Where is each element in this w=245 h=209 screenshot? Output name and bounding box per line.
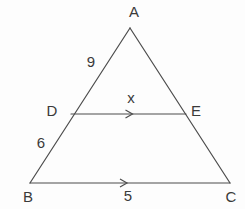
geometry-diagram: ABCDE96x5 xyxy=(0,0,245,209)
vertex-label-D: D xyxy=(47,102,58,119)
segment-AB xyxy=(30,28,130,183)
vertex-label-A: A xyxy=(129,3,139,20)
triangle-parallel-line-diagram: ABCDE96x5 xyxy=(0,0,245,209)
vertex-label-C: C xyxy=(226,188,237,205)
vertex-label-E: E xyxy=(191,102,201,119)
length-DE-label: x xyxy=(127,89,135,106)
length-DB-label: 6 xyxy=(37,134,45,151)
segment-AC xyxy=(130,28,230,183)
length-BC-label: 5 xyxy=(124,187,132,204)
length-AD-label: 9 xyxy=(87,53,95,70)
vertex-label-B: B xyxy=(23,188,33,205)
